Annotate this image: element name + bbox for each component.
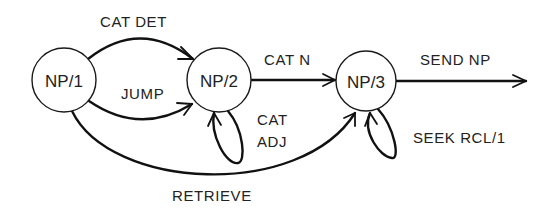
edge-cat-adj: CAT ADJ bbox=[208, 111, 288, 163]
node-np3: NP/3 bbox=[336, 51, 396, 111]
node-label-np3: NP/3 bbox=[347, 73, 385, 92]
edge-label-send-np: SEND NP bbox=[420, 51, 491, 68]
node-label-np1: NP/1 bbox=[45, 72, 83, 91]
edge-label-retrieve: RETRIEVE bbox=[172, 187, 252, 204]
edge-label-cat-n: CAT N bbox=[264, 51, 311, 68]
edge-cat-n: CAT N bbox=[251, 51, 335, 86]
edge-label-cat-det: CAT DET bbox=[100, 13, 167, 30]
edge-jump: JUMP bbox=[89, 85, 192, 119]
edge-seek-rcl: SEEK RCL/1 bbox=[365, 109, 506, 158]
edge-label-jump: JUMP bbox=[121, 85, 164, 102]
edge-label-cat-adj-line2: ADJ bbox=[257, 133, 287, 150]
edge-cat-det: CAT DET bbox=[88, 13, 193, 59]
edge-label-seek-rcl: SEEK RCL/1 bbox=[413, 129, 506, 146]
node-np2: NP/2 bbox=[187, 48, 251, 112]
node-np1: NP/1 bbox=[32, 48, 96, 112]
node-label-np2: NP/2 bbox=[200, 72, 238, 91]
edge-send-np: SEND NP bbox=[396, 51, 526, 87]
atn-diagram: CAT DET JUMP CAT N CAT ADJ RETRIEVE SEEK… bbox=[0, 0, 554, 209]
edge-label-cat-adj-line1: CAT bbox=[257, 111, 288, 128]
